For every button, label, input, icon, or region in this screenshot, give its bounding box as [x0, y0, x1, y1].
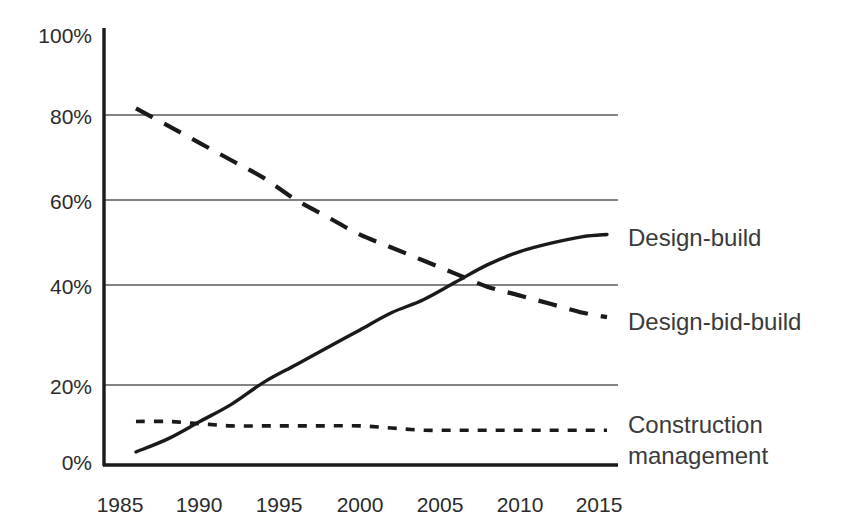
- y-tick-label-80: 80%: [50, 105, 92, 128]
- series-label-construction-management-line2: management: [628, 442, 768, 469]
- x-tick-label-2000: 2000: [337, 493, 384, 516]
- y-tick-label-60: 60%: [50, 190, 92, 213]
- series-label-construction-management-line1: Construction: [628, 411, 763, 438]
- y-tick-label-20: 20%: [50, 375, 92, 398]
- chart-page: 100% 80% 60% 40% 20% 0% 1985 1990 1995 2…: [0, 0, 854, 530]
- x-tick-label-2005: 2005: [417, 493, 464, 516]
- y-tick-label-40: 40%: [50, 275, 92, 298]
- x-tick-label-1990: 1990: [176, 493, 223, 516]
- series-label-design-build: Design-build: [628, 224, 761, 251]
- line-chart: 100% 80% 60% 40% 20% 0% 1985 1990 1995 2…: [0, 0, 854, 530]
- y-tick-label-100: 100%: [38, 24, 92, 47]
- x-tick-label-1995: 1995: [256, 493, 303, 516]
- y-tick-label-0: 0%: [62, 451, 92, 474]
- series-line-design-build: [136, 234, 607, 452]
- series-line-construction-management: [136, 421, 607, 430]
- gridlines: [103, 115, 618, 385]
- series-group: [136, 108, 607, 452]
- x-tick-label-1985: 1985: [97, 493, 144, 516]
- x-axis-tick-labels: 1985 1990 1995 2000 2005 2010 2015: [97, 493, 623, 516]
- series-labels: Design-build Design-bid-build Constructi…: [628, 224, 801, 469]
- x-tick-label-2015: 2015: [576, 493, 623, 516]
- series-label-design-bid-build: Design-bid-build: [628, 308, 801, 335]
- y-axis-tick-labels: 100% 80% 60% 40% 20% 0%: [38, 24, 92, 474]
- x-tick-label-2010: 2010: [497, 493, 544, 516]
